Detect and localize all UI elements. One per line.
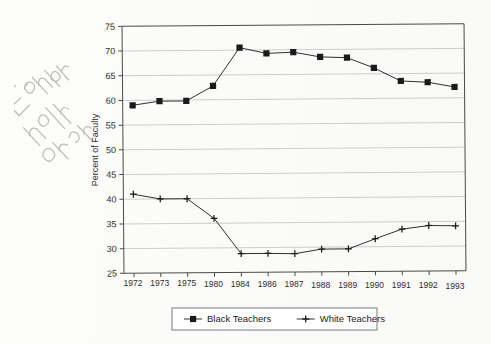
x-tick-label: 1988 <box>311 280 330 290</box>
gridline <box>123 122 465 125</box>
y-tick-label: 70 <box>105 46 115 56</box>
data-point-marker <box>236 45 242 51</box>
y-tick-label: 55 <box>106 120 116 130</box>
legend-label: Black Teachers <box>207 313 271 324</box>
y-tick-label: 45 <box>106 170 116 180</box>
x-tick-label: 1992 <box>419 280 438 290</box>
x-tick-label: 1991 <box>392 280 411 290</box>
chart-figure: 2530354045505560657075 Percent of Facult… <box>0 0 491 344</box>
x-tick-label: 1980 <box>204 279 223 289</box>
y-axis-title: Percent of Faculty <box>90 113 100 186</box>
data-point-marker <box>265 250 272 257</box>
y-tick-label: 25 <box>107 269 117 279</box>
data-point-marker <box>372 235 379 242</box>
data-point-marker <box>157 196 164 203</box>
x-tick-label: 1984 <box>231 279 250 289</box>
y-axis-ticks: 2530354045505560657075 <box>105 22 124 279</box>
y-tick-label: 40 <box>106 194 116 204</box>
data-point-marker <box>425 79 431 85</box>
x-tick-label: 1986 <box>258 279 277 289</box>
data-point-marker <box>290 49 296 55</box>
data-point-marker <box>291 250 298 257</box>
gridline <box>124 221 466 224</box>
data-point-marker <box>317 54 323 60</box>
data-point-marker <box>318 246 325 253</box>
gridline <box>123 147 465 150</box>
gridlines <box>122 48 466 248</box>
gridline <box>124 246 466 249</box>
x-tick-label: 1993 <box>446 281 465 291</box>
data-point-marker <box>183 98 189 104</box>
data-point-marker <box>344 55 350 61</box>
line-chart-svg: 2530354045505560657075 Percent of Facult… <box>0 0 491 344</box>
data-point-marker <box>345 245 352 252</box>
y-tick-label: 50 <box>106 145 116 155</box>
y-tick-label: 30 <box>107 244 117 254</box>
gridline <box>123 98 465 101</box>
data-point-marker <box>184 195 191 202</box>
data-point-marker <box>452 222 459 229</box>
legend-label: White Teachers <box>320 313 386 324</box>
y-tick-label: 35 <box>107 219 117 229</box>
data-point-marker <box>156 98 162 104</box>
data-point-marker <box>371 65 377 71</box>
y-tick-label: 65 <box>105 71 115 81</box>
x-tick-label: 1975 <box>177 278 196 288</box>
plot-top-border <box>122 24 464 27</box>
data-point-marker <box>263 50 269 56</box>
chart-legend: Black TeachersWhite Teachers <box>172 308 385 330</box>
gridline <box>123 172 465 175</box>
x-tick-label: 1989 <box>338 280 357 290</box>
data-point-marker <box>211 215 218 222</box>
x-tick-label: 1987 <box>285 279 304 289</box>
gridline <box>122 73 464 76</box>
data-point-marker <box>130 102 136 108</box>
x-tick-label: 1990 <box>365 280 384 290</box>
data-point-marker <box>425 222 432 229</box>
data-point-marker <box>398 78 404 84</box>
legend-marker-square-icon <box>190 316 196 322</box>
y-tick-label: 60 <box>106 96 116 106</box>
x-tick-label: 1973 <box>150 278 169 288</box>
y-tick-label: 75 <box>105 22 115 32</box>
data-point-marker <box>399 226 406 233</box>
data-point-marker <box>130 191 137 198</box>
x-tick-label: 1972 <box>124 278 143 288</box>
data-point-marker <box>451 84 457 90</box>
x-axis-tick-labels: 1972197319751980198419861987198819891990… <box>124 278 465 291</box>
data-point-marker <box>210 83 216 89</box>
